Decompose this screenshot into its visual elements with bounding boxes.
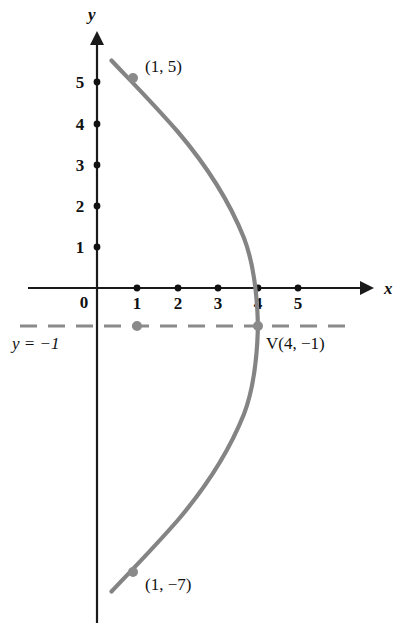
x-axis-arrow-icon	[360, 281, 374, 295]
lower-point-label: (1, −7)	[145, 575, 191, 594]
x-tick-label-3: 3	[214, 294, 223, 313]
x-tick-label-1: 1	[133, 294, 142, 313]
y-tick-dot-4	[94, 121, 101, 128]
x-tick-dot-1	[134, 285, 141, 292]
point-marker-1-5	[128, 73, 138, 83]
y-tick-dot-1	[94, 244, 101, 251]
upper-point-label: (1, 5)	[145, 57, 182, 76]
y-tick-dot-3	[94, 162, 101, 169]
point-marker-vertex	[253, 321, 263, 331]
x-tick-label-5: 5	[294, 294, 303, 313]
x-tick-dot-2	[175, 285, 182, 292]
point-marker-1-minus7	[128, 567, 138, 577]
y-tick-dot-5	[94, 79, 101, 86]
origin-label: 0	[80, 293, 89, 312]
x-tick-labels: 1 2 3 4 5	[133, 294, 303, 313]
x-tick-label-2: 2	[174, 294, 183, 313]
y-tick-label-2: 2	[76, 197, 85, 216]
graph-canvas: x y 0 1 2 3 4 5 1 2	[0, 0, 411, 638]
y-axis-label: y	[86, 5, 96, 24]
parabola-figure: x y 0 1 2 3 4 5 1 2	[0, 0, 411, 638]
y-tick-label-1: 1	[76, 238, 85, 257]
y-tick-label-4: 4	[76, 115, 85, 134]
vertex-label: V(4, −1)	[266, 334, 325, 353]
y-tick-label-3: 3	[76, 156, 85, 175]
x-axis-label: x	[383, 279, 393, 298]
y-tick-dot-2	[94, 203, 101, 210]
x-tick-dot-5	[295, 285, 302, 292]
point-marker-directrix-1	[132, 321, 142, 331]
y-axis-arrow-icon	[90, 31, 104, 45]
directrix-label: y = −1	[10, 334, 60, 353]
y-tick-labels: 1 2 3 4 5	[76, 73, 85, 257]
y-tick-label-5: 5	[76, 73, 85, 92]
x-tick-dot-3	[215, 285, 222, 292]
